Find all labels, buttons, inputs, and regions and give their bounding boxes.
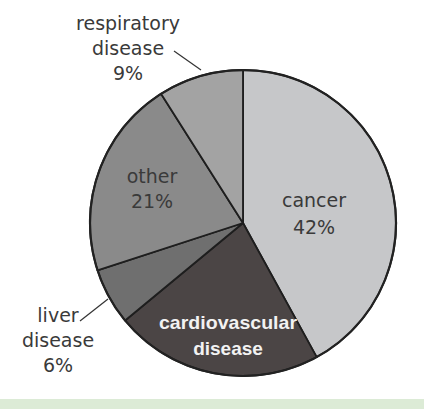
svg-text:42%: 42% (293, 216, 335, 238)
svg-text:respiratory: respiratory (76, 12, 180, 34)
label-respiratory: respiratory disease 9% (76, 12, 180, 84)
svg-text:6%: 6% (43, 354, 73, 376)
svg-text:9%: 9% (113, 62, 143, 84)
svg-text:disease: disease (193, 338, 263, 359)
respiratory-leader-line (174, 51, 201, 70)
svg-text:disease: disease (22, 329, 94, 351)
svg-text:cancer: cancer (282, 189, 346, 211)
pie-chart: cancer 42% cardiovascular disease other … (0, 0, 424, 409)
liver-leader-line (80, 299, 108, 321)
svg-text:other: other (127, 165, 178, 187)
svg-text:disease: disease (92, 37, 164, 59)
footer-band (0, 399, 424, 409)
svg-text:liver: liver (37, 304, 78, 326)
label-liver: liver disease 6% (22, 304, 94, 376)
svg-text:21%: 21% (131, 190, 173, 212)
svg-text:cardiovascular: cardiovascular (159, 312, 298, 333)
